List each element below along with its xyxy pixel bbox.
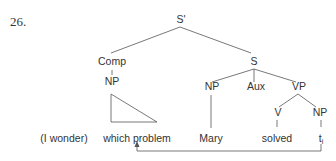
terminal-verb: solved <box>262 132 292 144</box>
terminal-subject: Mary <box>199 132 222 144</box>
node-subject-np: NP <box>205 80 220 92</box>
node-s: S <box>250 55 257 67</box>
node-v: V <box>274 106 281 118</box>
syntax-tree-diagram: 26. S' Comp S NP NP Aux VP V NP (I wonde… <box>0 0 336 161</box>
node-s-bar: S' <box>176 13 185 25</box>
node-comp-np: NP <box>105 75 120 87</box>
node-aux: Aux <box>247 80 265 92</box>
node-vp: VP <box>292 80 306 92</box>
terminal-wh-phrase: which problem <box>103 132 171 144</box>
node-object-np: NP <box>313 106 328 118</box>
trace-index: i <box>322 138 324 145</box>
terminal-trace: ti <box>319 132 323 148</box>
node-comp: Comp <box>98 55 126 67</box>
example-number: 26. <box>10 14 26 29</box>
terminal-prefix: (I wonder) <box>40 132 87 144</box>
